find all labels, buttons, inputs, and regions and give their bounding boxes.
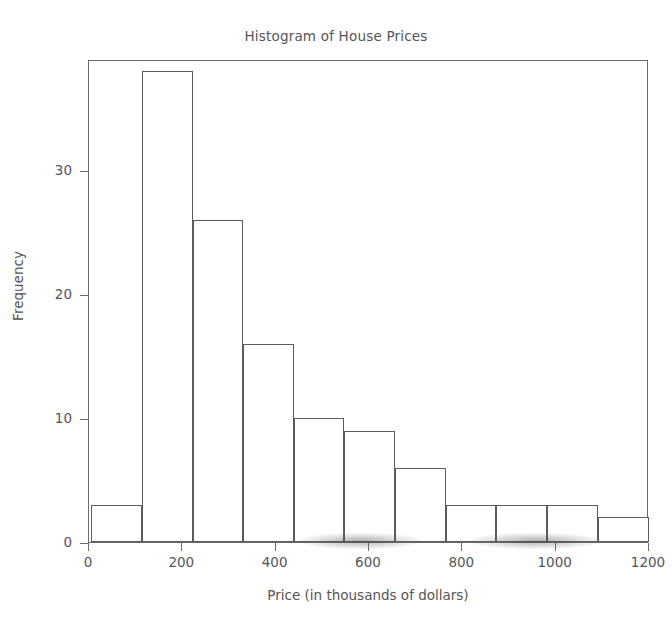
x-axis-tick-label: 600 [328,554,408,570]
x-axis-tick [555,543,556,551]
histogram-bar [294,418,344,542]
x-axis-tick-label: 1200 [608,554,672,570]
x-axis-tick [368,543,369,551]
x-axis-label: Price (in thousands of dollars) [88,587,648,603]
x-axis-tick [461,543,462,551]
x-axis-tick-label: 0 [48,554,128,570]
x-axis-tick-label: 1000 [515,554,595,570]
y-axis-tick-label: 10 [2,410,72,426]
histogram-bar [243,344,294,542]
x-axis-tick-label: 200 [141,554,221,570]
x-axis-tick [88,543,89,551]
histogram-bar [193,220,243,542]
histogram-bar [598,517,649,542]
y-axis-tick [80,171,88,172]
y-axis-tick [80,295,88,296]
x-axis-tick [648,543,649,551]
histogram-bar [91,505,141,542]
histogram-bar [344,431,395,542]
histogram-bar [547,505,598,542]
histogram-bar [395,468,445,542]
y-axis-tick-label: 30 [2,162,72,178]
histogram-figure: Histogram of House Prices Frequency Pric… [0,0,672,641]
histogram-bar [446,505,497,542]
chart-title: Histogram of House Prices [0,28,672,44]
y-axis-tick [80,419,88,420]
y-axis-tick-label: 0 [2,534,72,550]
x-axis-tick [275,543,276,551]
plot-area [88,60,648,543]
histogram-bar [142,71,193,542]
y-axis-tick-label: 20 [2,286,72,302]
x-axis-tick-label: 400 [235,554,315,570]
x-axis-tick [181,543,182,551]
histogram-bar [496,505,546,542]
histogram-bars [89,61,647,542]
x-axis-tick-label: 800 [421,554,501,570]
y-axis-tick [80,543,88,544]
